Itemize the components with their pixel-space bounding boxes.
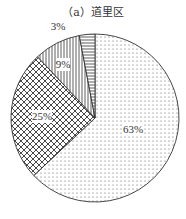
pie-chart: 63%25%9%3% xyxy=(0,0,186,219)
slice-label-63: 63% xyxy=(123,123,143,135)
slice-label-3: 3% xyxy=(51,20,66,32)
slice-label-25: 25% xyxy=(32,110,52,122)
slice-label-9: 9% xyxy=(56,58,71,70)
